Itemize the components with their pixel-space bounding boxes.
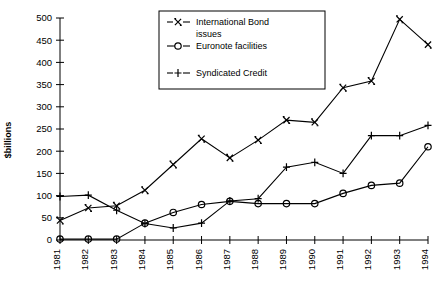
x-tick-label: 1985: [164, 249, 175, 270]
x-tick-label: 1992: [362, 249, 373, 270]
legend-label[interactable]: Euronote facilities: [196, 41, 268, 51]
x-tick-label: 1991: [334, 249, 345, 270]
y-tick-label: 250: [36, 123, 52, 134]
line-chart: $billions 050100150200250300350400450500…: [0, 0, 440, 285]
y-axis-title: $billions: [3, 122, 13, 159]
x-tick-label: 1988: [249, 249, 260, 270]
legend-label[interactable]: International Bond: [196, 17, 269, 27]
y-tick-label: 450: [36, 35, 52, 46]
y-tick-label: 350: [36, 79, 52, 90]
x-tick-label: 1986: [193, 249, 204, 270]
x-tick-label: 1994: [419, 249, 430, 270]
chart-container: $billions 050100150200250300350400450500…: [0, 0, 440, 285]
x-tick-label: 1983: [108, 249, 119, 270]
x-tick-label: 1989: [277, 249, 288, 270]
legend-label[interactable]: Syndicated Credit: [196, 68, 268, 78]
y-tick-label: 500: [36, 12, 52, 23]
x-tick-label: 1982: [79, 249, 90, 270]
y-axis-title-label: $billions: [3, 122, 13, 159]
y-tick-label: 400: [36, 57, 52, 68]
y-tick-label: 200: [36, 146, 52, 157]
y-tick-label: 0: [47, 234, 52, 245]
x-tick-label: 1993: [391, 249, 402, 270]
y-tick-label: 150: [36, 168, 52, 179]
y-tick-label: 50: [41, 212, 52, 223]
x-tick-label: 1984: [136, 249, 147, 270]
x-tick-label: 1987: [221, 249, 232, 270]
chart-legend: International BondissuesEuronote facilit…: [159, 11, 325, 89]
y-tick-label: 300: [36, 101, 52, 112]
legend-label-continued: issues: [196, 29, 222, 39]
y-tick-label: 100: [36, 190, 52, 201]
x-tick-label: 1990: [306, 249, 317, 270]
x-tick-label: 1981: [51, 249, 62, 270]
